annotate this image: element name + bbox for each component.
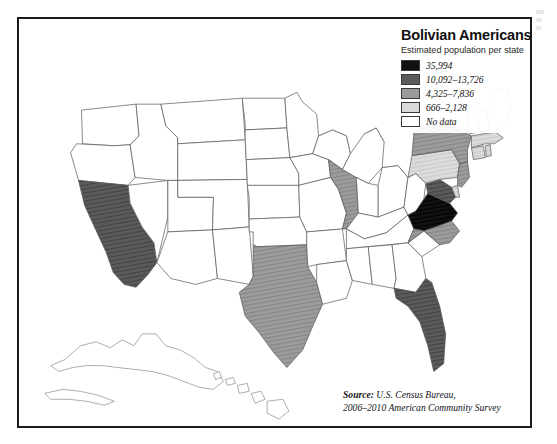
source-publisher: U.S. Census Bureau, — [376, 389, 455, 400]
state-ND[interactable] — [242, 98, 287, 130]
legend-swatch-1 — [401, 74, 420, 85]
state-MN[interactable] — [285, 92, 319, 157]
source-note: Source: U.S. Census Bureau, 2006–2010 Am… — [343, 389, 532, 414]
state-NE[interactable] — [246, 158, 299, 186]
source-line-2: 2006–2010 American Community Survey — [343, 402, 532, 415]
legend-swatch-2 — [401, 88, 420, 99]
map-frame: Bolivian Americans Estimated population … — [17, 17, 532, 428]
state-FL[interactable] — [394, 278, 446, 371]
state-SD[interactable] — [245, 128, 290, 160]
source-line-1: Source: U.S. Census Bureau, — [343, 389, 532, 402]
map-legend: Bolivian Americans Estimated population … — [396, 24, 530, 133]
state-RI[interactable] — [485, 145, 491, 157]
state-OR[interactable] — [71, 144, 135, 186]
state-IN[interactable] — [356, 177, 378, 217]
state-WY[interactable] — [178, 140, 247, 181]
legend-swatch-4 — [401, 116, 420, 127]
legend-item-1[interactable]: 10,092–13,726 — [401, 73, 526, 86]
legend-item-0[interactable]: 35,994 — [401, 59, 526, 72]
state-LA[interactable] — [317, 261, 353, 305]
source-prefix: Source: — [343, 389, 374, 400]
legend-title: Bolivian Americans — [401, 27, 526, 44]
legend-label-1: 10,092–13,726 — [426, 74, 484, 85]
legend-item-4[interactable]: No data — [401, 115, 526, 128]
state-NM[interactable] — [212, 227, 253, 284]
state-NJ[interactable] — [458, 162, 470, 188]
state-AZ[interactable] — [157, 230, 218, 284]
state-CT[interactable] — [471, 146, 485, 160]
legend-label-0: 35,994 — [426, 60, 452, 71]
state-AK[interactable] — [51, 334, 224, 389]
legend-swatch-0 — [401, 60, 420, 71]
state-OK[interactable] — [249, 217, 307, 247]
state-KS[interactable] — [247, 185, 300, 219]
state-AK-aleutians[interactable] — [45, 389, 114, 405]
state-AL[interactable] — [368, 245, 396, 289]
state-HI[interactable] — [213, 372, 288, 420]
state-AR[interactable] — [307, 229, 347, 267]
legend-item-3[interactable]: 666–2,128 — [401, 101, 526, 114]
legend-label-2: 4,325–7,836 — [426, 88, 474, 99]
legend-swatch-3 — [401, 102, 420, 113]
state-WA[interactable] — [82, 104, 140, 146]
legend-label-3: 666–2,128 — [426, 102, 467, 113]
page-bleed-artifact — [536, 10, 556, 38]
legend-subtitle: Estimated population per state — [401, 45, 526, 56]
legend-label-4: No data — [426, 116, 457, 127]
legend-item-2[interactable]: 4,325–7,836 — [401, 87, 526, 100]
